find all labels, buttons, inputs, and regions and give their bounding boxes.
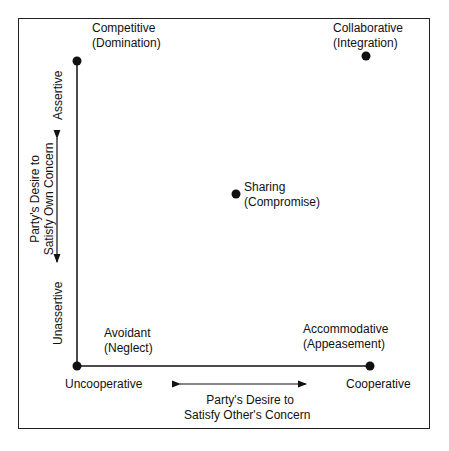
avoidant-point <box>73 362 82 371</box>
competitive-name: Competitive <box>92 21 161 36</box>
collaborative-point <box>362 52 371 61</box>
collaborative-sub: (Integration) <box>333 36 403 51</box>
avoidant-label: Avoidant (Neglect) <box>104 326 153 356</box>
accommodative-sub: (Appeasement) <box>303 337 388 352</box>
x-axis-title-line1: Party's Desire to <box>184 393 310 408</box>
assertive-label: Assertive <box>51 71 65 120</box>
sharing-point <box>232 190 241 199</box>
competitive-point <box>73 57 82 66</box>
y-axis-title-line1: Party's Desire to <box>28 138 42 260</box>
sharing-name: Sharing <box>244 180 320 195</box>
collaborative-label: Collaborative (Integration) <box>333 21 403 51</box>
uncooperative-label: Uncooperative <box>65 377 142 392</box>
competitive-label: Competitive (Domination) <box>92 21 161 51</box>
unassertive-label: Unassertive <box>51 282 65 345</box>
accommodative-name: Accommodative <box>303 322 388 337</box>
x-axis-title: Party's Desire to Satisfy Other's Concer… <box>184 393 310 423</box>
cooperative-label: Cooperative <box>346 377 411 392</box>
y-axis-title-line2: Satisfy Own Concern <box>42 138 56 260</box>
y-axis-title: Party's Desire to Satisfy Own Concern <box>28 138 56 260</box>
accommodative-label: Accommodative (Appeasement) <box>303 322 388 352</box>
avoidant-sub: (Neglect) <box>104 341 153 356</box>
accommodative-point <box>366 362 375 371</box>
sharing-sub: (Compromise) <box>244 195 320 210</box>
x-axis-title-line2: Satisfy Other's Concern <box>184 408 310 423</box>
competitive-sub: (Domination) <box>92 36 161 51</box>
avoidant-name: Avoidant <box>104 326 153 341</box>
sharing-label: Sharing (Compromise) <box>244 180 320 210</box>
collaborative-name: Collaborative <box>333 21 403 36</box>
